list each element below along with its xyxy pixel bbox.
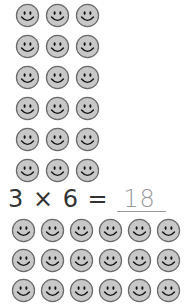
smiley-face-icon: [156, 218, 181, 243]
smiley-face-icon: [45, 3, 70, 28]
smiley-face-icon: [75, 127, 100, 152]
smiley-face-icon: [45, 34, 70, 59]
smiley-face-icon: [98, 218, 123, 243]
smiley-face-icon: [127, 248, 152, 273]
smiley-face-icon: [15, 158, 40, 183]
smiley-face-icon: [98, 278, 123, 303]
smiley-face-icon: [40, 218, 65, 243]
multiplication-equation: 3 × 6 = 18: [8, 185, 166, 213]
smiley-face-icon: [75, 3, 100, 28]
smiley-face-icon: [127, 278, 152, 303]
smiley-face-icon: [75, 96, 100, 121]
smiley-face-icon: [15, 3, 40, 28]
smiley-face-icon: [40, 248, 65, 273]
smiley-face-icon: [11, 248, 36, 273]
smiley-face-icon: [69, 248, 94, 273]
smiley-face-icon: [45, 96, 70, 121]
smiley-face-icon: [15, 96, 40, 121]
smiley-face-icon: [75, 65, 100, 90]
smiley-face-icon: [11, 278, 36, 303]
smiley-face-icon: [69, 278, 94, 303]
smiley-face-icon: [15, 34, 40, 59]
smiley-face-icon: [15, 65, 40, 90]
smiley-face-icon: [15, 127, 40, 152]
smiley-grid-3x6: [15, 3, 100, 183]
smiley-face-icon: [45, 127, 70, 152]
smiley-grid-6x3: [11, 218, 181, 303]
smiley-face-icon: [75, 34, 100, 59]
equation-answer: 18: [117, 187, 166, 212]
smiley-face-icon: [127, 218, 152, 243]
smiley-face-icon: [156, 248, 181, 273]
smiley-face-icon: [45, 65, 70, 90]
smiley-face-icon: [75, 158, 100, 183]
smiley-face-icon: [156, 278, 181, 303]
smiley-face-icon: [45, 158, 70, 183]
smiley-face-icon: [11, 218, 36, 243]
smiley-face-icon: [98, 248, 123, 273]
smiley-face-icon: [69, 218, 94, 243]
smiley-face-icon: [40, 278, 65, 303]
equation-expression: 3 × 6 =: [8, 185, 109, 213]
